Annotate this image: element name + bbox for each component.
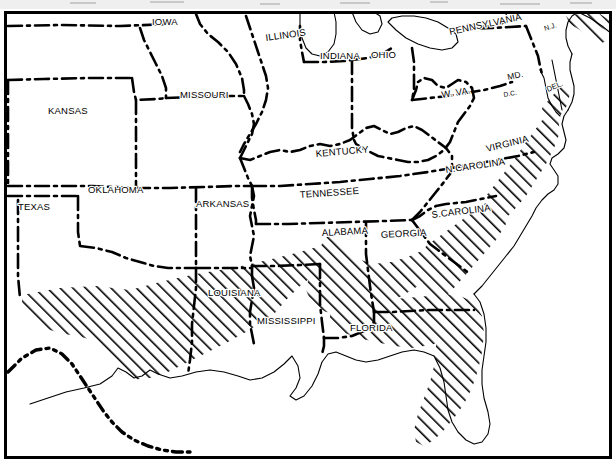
state-label-mississippi: MISSISSIPPI <box>257 315 316 326</box>
state-label-missouri: MISSOURI <box>180 89 229 100</box>
state-label-oklahoma: OKLAHOMA <box>88 184 144 195</box>
state-label-texas: TEXAS <box>18 201 50 212</box>
state-label-iowa: IOWA <box>152 16 178 27</box>
map-container: IOWAILLINOISINDIANAOHIOPENNSYLVANIAN.J.M… <box>0 0 616 464</box>
map-figure: IOWAILLINOISINDIANAOHIOPENNSYLVANIAN.J.M… <box>0 0 616 464</box>
state-label-florida: FLORIDA <box>350 322 393 333</box>
state-label-louisiana: LOUISIANA <box>208 287 261 298</box>
state-label-arkansas: ARKANSAS <box>196 198 249 209</box>
state-label-kansas: KANSAS <box>48 105 88 116</box>
map-background <box>0 0 616 464</box>
state-label-indiana: INDIANA <box>320 50 360 61</box>
state-label-ohio: OHIO <box>371 49 396 60</box>
